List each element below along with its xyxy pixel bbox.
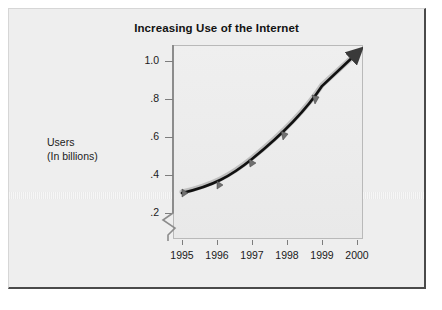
x-tick-label-1995: 1995 [162, 249, 202, 261]
y-axis-caption-line-2: (In billions) [47, 149, 143, 163]
x-tick-1997 [252, 240, 253, 245]
x-tick-1996 [217, 240, 218, 245]
plot-area [173, 45, 363, 239]
x-tick-1999 [322, 240, 323, 245]
plot-background [174, 46, 362, 238]
y-axis-line [172, 45, 174, 213]
y-tick-0.8 [165, 99, 173, 100]
y-tick-label-0.8: .8 [125, 92, 159, 104]
y-tick-0.6 [165, 137, 173, 138]
x-tick-1995 [182, 240, 183, 245]
zigzag-break-icon [159, 207, 181, 241]
x-tick-label-1996: 1996 [197, 249, 237, 261]
y-tick-label-1.0: 1.0 [125, 54, 159, 66]
y-tick-1.0 [165, 61, 173, 62]
chart-title: Increasing Use of the Internet [9, 22, 424, 34]
y-tick-label-0.6: .6 [125, 130, 159, 142]
x-tick-1998 [287, 240, 288, 245]
x-tick-label-1998: 1998 [267, 249, 307, 261]
x-tick-label-1999: 1999 [302, 249, 342, 261]
x-tick-label-1997: 1997 [232, 249, 272, 261]
chart-figure: Increasing Use of the Internet Users (In… [8, 8, 426, 289]
y-tick-0.4 [165, 175, 173, 176]
y-tick-label-0.2: .2 [125, 206, 159, 218]
x-tick-label-2000: 2000 [337, 249, 377, 261]
x-tick-2000 [357, 240, 358, 245]
y-tick-label-0.4: .4 [125, 168, 159, 180]
